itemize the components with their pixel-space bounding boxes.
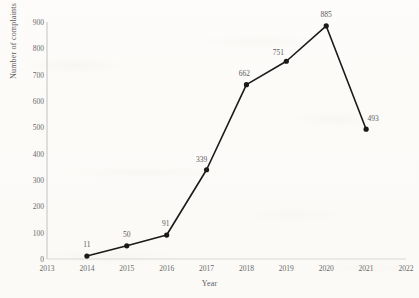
series-markers: [84, 23, 368, 258]
data-point-marker: [364, 127, 369, 132]
data-point-label: 50: [123, 230, 131, 239]
data-point-label: 493: [367, 114, 378, 123]
data-point-label: 662: [239, 69, 250, 78]
data-point-label: 91: [162, 219, 170, 228]
plot-area: [0, 0, 419, 298]
data-point-label: 11: [83, 240, 90, 249]
data-point-marker: [204, 167, 209, 172]
data-point-marker: [244, 82, 249, 87]
line-chart-figure: Number of complaints Year 01002003004005…: [0, 0, 419, 298]
data-point-marker: [84, 254, 89, 259]
data-point-label: 751: [273, 48, 284, 57]
data-point-marker: [284, 59, 289, 64]
data-point-marker: [124, 243, 129, 248]
data-point-marker: [324, 23, 329, 28]
data-point-label: 885: [321, 10, 332, 19]
axis-lines: [47, 22, 406, 259]
data-point-marker: [164, 232, 169, 237]
series-line: [87, 26, 366, 256]
data-point-label: 339: [196, 155, 207, 164]
